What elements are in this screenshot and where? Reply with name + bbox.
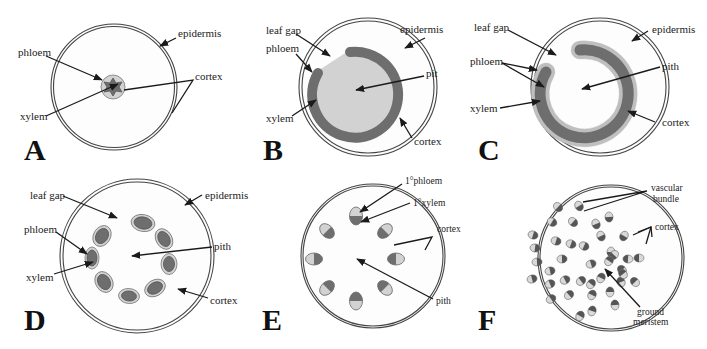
panel-letter-e: E xyxy=(262,303,282,336)
label-primary-phloem: 1°phloem xyxy=(405,176,443,186)
label-epidermis: epidermis xyxy=(178,27,221,39)
label-leaf-gap: leaf gap xyxy=(30,189,66,201)
panel-c-siphonostele: leaf gap phloem xylem epidermis pith cor… xyxy=(470,18,695,166)
label-pith: pith xyxy=(436,296,451,306)
label-cortex: cortex xyxy=(662,116,690,128)
vascular-bundle xyxy=(532,258,542,267)
label-epidermis: epidermis xyxy=(652,23,695,35)
vascular-bundle xyxy=(623,255,633,264)
label-phloem: phloem xyxy=(266,42,299,54)
meristele xyxy=(85,247,99,269)
label-cortex: cortex xyxy=(195,70,223,82)
vascular-bundle xyxy=(557,255,567,263)
label-epidermis: epidermis xyxy=(205,189,248,201)
label-pith: pit xyxy=(426,67,438,79)
vascular-bundle xyxy=(526,274,538,284)
vascular-bundle xyxy=(634,254,644,262)
vascular-bundle xyxy=(606,287,614,297)
label-leaf-gap: leaf gap xyxy=(266,24,302,36)
label-ground-meristem-line2: meristem xyxy=(633,317,669,327)
vascular-bundle xyxy=(527,230,539,241)
label-xylem: xylem xyxy=(266,112,294,124)
vascular-bundle xyxy=(605,212,613,222)
label-phloem: phloem xyxy=(18,46,51,58)
label-vascular-bundle-line2: bundle xyxy=(653,194,679,204)
label-pith: pith xyxy=(662,60,680,72)
panel-letter-c: C xyxy=(478,133,500,166)
stele-types-diagram: phloem xylem epidermis cortex A leaf gap… xyxy=(0,0,707,349)
label-cortex: cortex xyxy=(414,135,442,147)
panel-a-protostele: phloem xylem epidermis cortex A xyxy=(18,24,223,166)
label-primary-xylem: 1°xylem xyxy=(413,198,446,208)
panel-letter-d: D xyxy=(24,303,46,336)
label-phloem: phloem xyxy=(470,55,503,67)
panel-e-eustele: 1°phloem 1°xylem cortex pith E xyxy=(262,176,461,336)
label-cortex: cortex xyxy=(210,294,238,306)
vascular-bundle xyxy=(388,253,405,265)
panel-b-siphonostele: leaf gap phloem xylem epidermis pit cort… xyxy=(263,18,443,166)
label-xylem: xylem xyxy=(20,110,48,122)
panel-f-atactostele: vascular bundle cortex ground meristem F xyxy=(478,183,684,336)
label-xylem: xylem xyxy=(26,271,54,283)
panel-d-dictyostele: leaf gap phloem xylem epidermis pith cor… xyxy=(24,179,248,336)
vascular-bundle xyxy=(350,207,363,225)
label-phloem: phloem xyxy=(24,223,57,235)
vascular-bundle xyxy=(306,253,323,265)
label-cortex: cortex xyxy=(655,222,679,232)
label-leaf-gap: leaf gap xyxy=(474,21,510,33)
panel-letter-b: B xyxy=(263,133,283,166)
panel-letter-a: A xyxy=(24,133,46,166)
label-epidermis: epidermis xyxy=(400,23,443,35)
vascular-bundle xyxy=(350,292,363,310)
label-xylem: xylem xyxy=(470,102,498,114)
label-pith: pith xyxy=(214,240,232,252)
label-ground-meristem-line1: ground xyxy=(637,307,664,317)
meristele xyxy=(161,254,177,275)
epidermis-pointer xyxy=(160,38,176,46)
label-vascular-bundle-line1: vascular xyxy=(651,183,683,193)
label-cortex: cortex xyxy=(437,224,461,234)
panel-letter-f: F xyxy=(478,303,496,336)
